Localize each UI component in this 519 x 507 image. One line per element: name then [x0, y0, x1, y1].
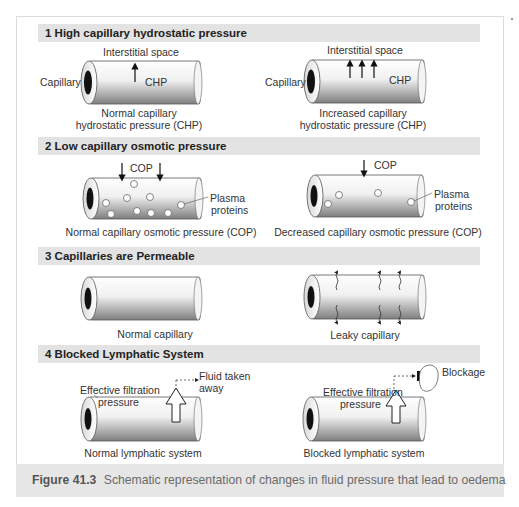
blockage-label: Blockage	[442, 366, 485, 378]
interstitial-space-label: Interstitial space	[327, 44, 403, 56]
normal-lymphatic-caption: Normal lymphatic system	[84, 447, 201, 459]
effective-filtration-label-line2: pressure	[340, 398, 381, 410]
cop-label: COP	[130, 162, 153, 174]
effective-filtration-label-line2: pressure	[98, 396, 139, 408]
figure-label: Figure 41.3	[32, 473, 96, 487]
cop-label: COP	[374, 159, 397, 171]
plasma-proteins-label-line1: Plasma	[210, 192, 245, 204]
capillary-vessel-decreased-cop	[307, 175, 425, 217]
lymph-node-blockage-icon	[419, 365, 438, 391]
capillary-label: Capillary	[40, 76, 81, 88]
plasma-proteins-label-line1: Plasma	[434, 188, 469, 200]
effective-filtration-label-line1: Effective filtration	[80, 384, 160, 396]
chp-label: CHP	[145, 76, 167, 88]
normal-chp-caption-line2: hydrostatic pressure (CHP)	[76, 119, 203, 131]
chp-label: CHP	[389, 74, 411, 86]
capillary-vessel-normal-chp	[81, 61, 202, 104]
leaky-capillary-caption: Leaky capillary	[330, 329, 399, 341]
interstitial-space-label: Interstitial space	[103, 46, 179, 58]
capillary-vessel-leaky	[304, 275, 426, 319]
capillary-vessel-normal-cop	[83, 178, 203, 219]
effective-filtration-label-line1: Effective filtration	[323, 386, 403, 398]
capillary-label: Capillary	[265, 76, 306, 88]
plasma-proteins-label-line2: proteins	[211, 204, 248, 216]
increased-chp-caption-line2: hydrostatic pressure (CHP)	[300, 119, 427, 131]
figure-caption-text: Schematic representation of changes in f…	[104, 473, 506, 487]
capillary-vessel-normal	[81, 277, 202, 320]
increased-chp-caption-line1: Increased capillary	[319, 107, 407, 119]
plasma-proteins-label-line2: proteins	[435, 200, 472, 212]
fluid-taken-away-label-line1: Fluid taken	[199, 370, 250, 382]
fluid-taken-away-label-line2: away	[199, 382, 224, 394]
normal-cop-caption: Normal capillary osmotic pressure (COP)	[66, 226, 257, 238]
normal-chp-caption-line1: Normal capillary	[101, 107, 176, 119]
figure-caption: Figure 41.3 Schematic representation of …	[16, 464, 504, 497]
normal-capillary-caption: Normal capillary	[117, 328, 192, 340]
decreased-cop-caption: Decreased capillary osmotic pressure (CO…	[274, 226, 482, 238]
blocked-lymphatic-caption: Blocked lymphatic system	[304, 447, 425, 459]
